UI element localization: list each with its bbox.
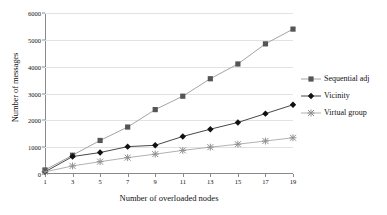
series-layer xyxy=(45,13,293,174)
legend-item: Sequential adj xyxy=(300,70,386,87)
diamond-marker xyxy=(290,102,296,108)
asterisk-marker xyxy=(262,138,269,145)
x-tick-label: 17 xyxy=(262,178,269,185)
y-tick-label: 5000 xyxy=(28,36,41,43)
square-marker xyxy=(153,107,158,112)
series-line xyxy=(45,29,293,170)
x-tick-label: 7 xyxy=(126,178,129,185)
x-tick-label: 15 xyxy=(235,178,242,185)
asterisk-marker xyxy=(290,134,297,141)
y-tick-label: 2000 xyxy=(28,117,41,124)
y-tick-label: 6000 xyxy=(28,10,41,17)
legend-label: Virtual group xyxy=(322,107,367,118)
x-tick-label: 3 xyxy=(71,178,74,185)
x-tick-label: 9 xyxy=(154,178,157,185)
chart-figure: Number of messages 010002000300040005000… xyxy=(0,0,387,215)
diamond-marker xyxy=(262,110,268,116)
square-marker xyxy=(180,94,185,99)
series-sequential-adj xyxy=(42,27,295,173)
x-axis-title: Number of overloaded nodes xyxy=(45,193,293,204)
diamond-marker xyxy=(124,143,130,149)
asterisk-marker xyxy=(69,163,76,170)
y-tick-label: 4000 xyxy=(28,63,41,70)
x-tick-mark xyxy=(265,174,266,177)
x-tick-label: 5 xyxy=(98,178,101,185)
diamond-marker xyxy=(152,142,158,148)
y-tick-label: 3000 xyxy=(28,90,41,97)
x-tick-mark xyxy=(210,174,211,177)
asterisk-legend-icon xyxy=(300,107,322,119)
legend-label: Vicinity xyxy=(322,90,350,101)
asterisk-marker xyxy=(207,144,214,151)
asterisk-marker xyxy=(152,151,159,158)
asterisk-marker xyxy=(308,109,315,116)
asterisk-marker xyxy=(179,147,186,154)
chart-legend: Sequential adjVicinityVirtual group xyxy=(300,70,386,121)
diamond-marker xyxy=(308,92,314,98)
x-tick-label: 13 xyxy=(207,178,214,185)
x-tick-mark xyxy=(155,174,156,177)
square-legend-icon xyxy=(300,73,322,85)
series-line xyxy=(45,105,293,172)
square-marker xyxy=(208,76,213,81)
asterisk-marker xyxy=(234,141,241,148)
asterisk-marker xyxy=(124,154,131,161)
x-tick-label: 1 xyxy=(43,178,46,185)
y-axis-title: Number of messages xyxy=(8,0,22,175)
diamond-marker xyxy=(180,133,186,139)
plot-area: 0100020003000400050006000 13579111315171… xyxy=(45,13,293,174)
diamond-legend-icon xyxy=(300,90,322,102)
x-tick-label: 19 xyxy=(290,178,297,185)
diamond-marker xyxy=(207,126,213,132)
square-marker xyxy=(125,124,130,129)
square-marker xyxy=(98,138,103,143)
diamond-marker xyxy=(97,149,103,155)
x-tick-mark xyxy=(73,174,74,177)
x-tick-mark xyxy=(293,174,294,177)
legend-item: Virtual group xyxy=(300,104,386,121)
square-marker xyxy=(235,61,240,66)
legend-item: Vicinity xyxy=(300,87,386,104)
asterisk-marker xyxy=(42,168,49,175)
square-marker xyxy=(263,41,268,46)
y-tick-label: 0 xyxy=(38,171,41,178)
x-tick-label: 11 xyxy=(180,178,186,185)
diamond-marker xyxy=(235,119,241,125)
series-vicinity xyxy=(42,102,296,175)
y-tick-label: 1000 xyxy=(28,144,41,151)
x-tick-mark xyxy=(238,174,239,177)
square-marker xyxy=(308,76,313,81)
asterisk-marker xyxy=(97,158,104,165)
legend-label: Sequential adj xyxy=(322,73,370,84)
x-tick-mark xyxy=(100,174,101,177)
square-marker xyxy=(290,27,295,32)
x-tick-mark xyxy=(183,174,184,177)
x-tick-mark xyxy=(128,174,129,177)
